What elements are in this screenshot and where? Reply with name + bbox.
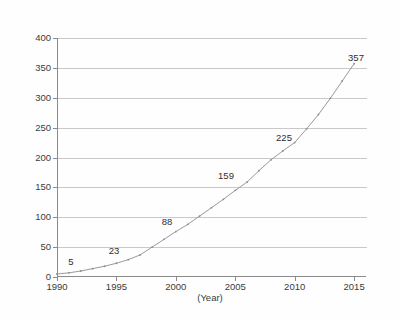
series-line bbox=[57, 64, 354, 274]
data-point-marker bbox=[246, 181, 248, 183]
x-axis-title: (Year) bbox=[0, 292, 400, 303]
data-point-marker bbox=[56, 273, 58, 275]
data-point-marker bbox=[175, 231, 177, 233]
data-point-marker bbox=[318, 114, 320, 116]
chart-figure: 050100150200250300350400 199019952000200… bbox=[0, 0, 400, 321]
point-value-label: 88 bbox=[162, 217, 173, 227]
data-point-marker bbox=[151, 246, 153, 248]
data-point-marker bbox=[127, 259, 129, 261]
data-point-marker bbox=[234, 189, 236, 191]
data-point-marker bbox=[329, 97, 331, 99]
point-value-label: 225 bbox=[276, 133, 292, 143]
data-point-marker bbox=[163, 238, 165, 240]
data-point-marker bbox=[341, 80, 343, 82]
point-value-label: 159 bbox=[218, 171, 234, 181]
data-point-marker bbox=[199, 215, 201, 217]
data-point-marker bbox=[306, 128, 308, 130]
data-point-marker bbox=[116, 262, 118, 264]
data-point-marker bbox=[139, 254, 141, 256]
data-point-marker bbox=[282, 150, 284, 152]
data-point-marker bbox=[270, 159, 272, 161]
data-point-marker bbox=[211, 207, 213, 209]
data-point-marker bbox=[104, 265, 106, 267]
data-point-marker bbox=[80, 270, 82, 272]
point-value-label: 5 bbox=[68, 257, 73, 267]
point-value-label: 357 bbox=[348, 53, 364, 63]
data-point-marker bbox=[222, 198, 224, 200]
series-markers bbox=[56, 63, 355, 275]
data-point-marker bbox=[258, 170, 260, 172]
point-value-label: 23 bbox=[109, 246, 120, 256]
data-point-marker bbox=[294, 142, 296, 144]
data-point-marker bbox=[187, 224, 189, 226]
data-series-layer bbox=[0, 0, 400, 321]
data-point-marker bbox=[68, 272, 70, 274]
data-point-marker bbox=[92, 268, 94, 270]
